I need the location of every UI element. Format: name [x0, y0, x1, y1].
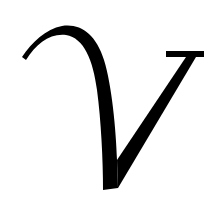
v-serif: [166, 51, 204, 57]
v-thin-stroke: [117, 57, 196, 188]
v-letter-icon: [0, 0, 218, 203]
calligraphic-v-glyph: [0, 0, 218, 203]
v-thick-stroke: [22, 26, 118, 190]
